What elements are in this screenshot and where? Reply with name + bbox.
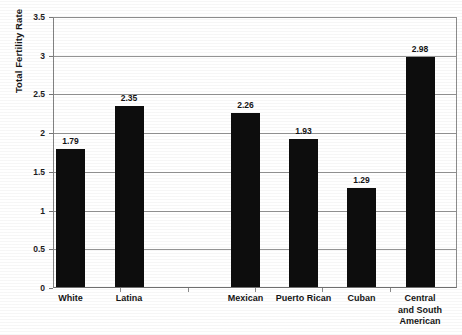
bar [406, 57, 435, 288]
x-axis-tick-mark [255, 288, 256, 292]
y-axis-tick-label: 0 [9, 284, 45, 293]
x-axis-tick-mark [390, 288, 391, 292]
bar [56, 149, 85, 288]
plot-area [53, 17, 457, 288]
bar-value-label: 2.26 [222, 101, 270, 110]
x-axis-category-label: Latina [93, 293, 165, 305]
bar-chart: Total Fertility Rate 00.511.522.533.5 1.… [0, 0, 462, 335]
x-axis-label-line: Central [384, 293, 456, 305]
y-axis-tick-label: 1.5 [9, 168, 45, 177]
bar [115, 106, 144, 288]
y-axis-tick-mark [49, 288, 53, 289]
bar-value-label: 1.79 [47, 137, 95, 146]
y-axis-tick-label: 2 [9, 129, 45, 138]
bar-value-label: 1.29 [338, 176, 386, 185]
bar-value-label: 2.98 [396, 45, 444, 54]
y-axis-tick-label: 3.5 [9, 13, 45, 22]
bar [289, 139, 318, 288]
gridline [53, 56, 457, 57]
y-axis-tick-label: 1 [9, 207, 45, 216]
bar [347, 188, 376, 288]
x-axis-tick-mark [322, 288, 323, 292]
x-axis-tick-mark [188, 288, 189, 292]
y-axis-tick-label: 3 [9, 52, 45, 61]
x-axis-label-line: American [384, 316, 456, 328]
x-axis-category-label: Centraland SouthAmerican [384, 293, 456, 328]
bar-value-label: 2.35 [105, 94, 153, 103]
x-axis-label-line: Latina [93, 293, 165, 305]
y-axis-tick-label: 2.5 [9, 90, 45, 99]
x-axis-label-line: and South [384, 305, 456, 317]
bar-value-label: 1.93 [280, 127, 328, 136]
x-axis-tick-mark [120, 288, 121, 292]
y-axis-tick-label: 0.5 [9, 245, 45, 254]
bar [231, 113, 260, 288]
